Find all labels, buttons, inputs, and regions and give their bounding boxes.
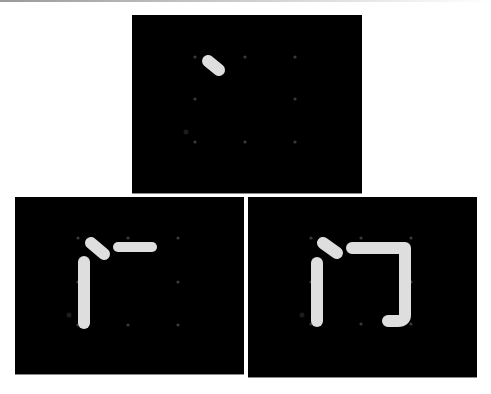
grid-dot (176, 323, 179, 326)
stroke-dot (91, 243, 104, 254)
stroke-step-3-panel: step-3 (248, 197, 477, 377)
grid-dot (293, 97, 296, 100)
grid-dot (193, 140, 196, 143)
grid-dot (126, 323, 129, 326)
grid-dot (193, 97, 196, 100)
grid-dot (359, 236, 362, 239)
grid-dot (409, 322, 412, 325)
grid-dot (176, 236, 179, 239)
stroke-dot (323, 243, 337, 253)
stroke-step-1-panel: step-1 (132, 15, 362, 193)
stroke-step-2-canvas (15, 197, 244, 374)
grid-dot (309, 236, 312, 239)
grid-dot (176, 280, 179, 283)
start-marker (184, 130, 189, 135)
top-divider-line (0, 0, 491, 2)
stroke-step-2-panel: step-2 (15, 197, 244, 374)
stroke-step-3-canvas (248, 197, 477, 377)
grid-dot (243, 140, 246, 143)
start-marker (300, 313, 305, 318)
grid-dot (126, 236, 129, 239)
grid-dot (359, 322, 362, 325)
grid-dot (76, 236, 79, 239)
grid-dot (293, 140, 296, 143)
start-marker (67, 313, 72, 318)
grid-dot (409, 236, 412, 239)
grid-dot (293, 55, 296, 58)
stroke-dot (208, 61, 219, 70)
grid-dot (243, 55, 246, 58)
stroke-horizontal-turn-hook (352, 248, 405, 321)
stroke-step-1-canvas (132, 15, 362, 193)
grid-dot (193, 55, 196, 58)
